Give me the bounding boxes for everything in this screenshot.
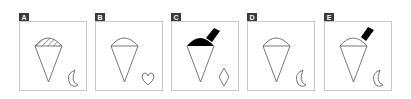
option-c[interactable]: C bbox=[171, 13, 239, 91]
option-a[interactable]: A bbox=[19, 13, 87, 91]
option-figure[interactable] bbox=[247, 21, 315, 91]
option-figure[interactable] bbox=[324, 21, 392, 91]
cone-diamond-icon bbox=[172, 22, 238, 90]
cone-crescent-icon bbox=[20, 22, 86, 90]
option-b[interactable]: B bbox=[95, 13, 163, 91]
option-figure[interactable] bbox=[171, 21, 239, 91]
option-e[interactable]: E bbox=[324, 13, 392, 91]
cone-heart-icon bbox=[96, 22, 162, 90]
option-figure[interactable] bbox=[95, 21, 163, 91]
cone-stick-crescent-icon bbox=[325, 22, 391, 90]
option-figure[interactable] bbox=[19, 21, 87, 91]
option-d[interactable]: D bbox=[247, 13, 315, 91]
cone-crescent-icon bbox=[248, 22, 314, 90]
